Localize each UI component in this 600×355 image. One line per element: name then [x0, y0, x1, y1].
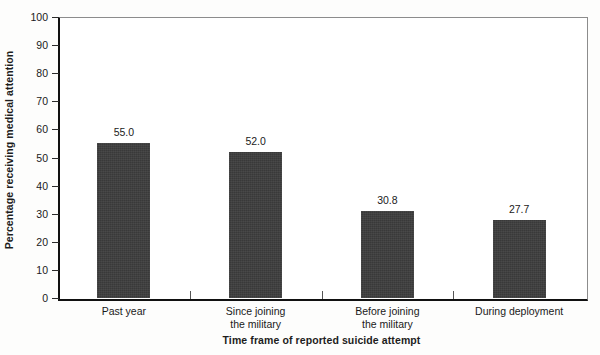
- bar-value-label: 55.0: [84, 126, 164, 138]
- y-axis-tick: [52, 270, 59, 271]
- y-axis-tick: [52, 73, 59, 74]
- bar-value-label: 30.8: [347, 194, 427, 206]
- bar: [229, 152, 282, 298]
- y-axis-tick-label: 100: [0, 11, 48, 23]
- y-axis-tick-label: 30: [0, 208, 48, 220]
- y-axis-tick: [52, 298, 59, 299]
- category-label-line: Before joining: [321, 305, 453, 318]
- y-axis-tick: [52, 158, 59, 159]
- bar: [493, 220, 546, 298]
- x-axis-tick: [322, 291, 323, 299]
- bar-value-label: 52.0: [216, 135, 296, 147]
- y-axis-tick-label: 80: [0, 67, 48, 79]
- y-axis-tick: [52, 186, 59, 187]
- bar: [97, 143, 150, 298]
- category-label-line: the military: [190, 318, 322, 331]
- bar-value-label: 27.7: [479, 203, 559, 215]
- y-axis-tick-label: 20: [0, 236, 48, 248]
- category-label-line: During deployment: [453, 305, 585, 318]
- x-axis-category-label: Before joiningthe military: [321, 305, 453, 331]
- y-axis-tick-label: 10: [0, 264, 48, 276]
- x-axis-category-label: During deployment: [453, 305, 585, 318]
- y-axis-tick: [52, 101, 59, 102]
- x-axis-category-label: Since joiningthe military: [190, 305, 322, 331]
- y-axis-tick-label: 70: [0, 95, 48, 107]
- x-axis-category-label: Past year: [58, 305, 190, 318]
- y-axis-tick: [52, 129, 59, 130]
- y-axis-tick: [52, 214, 59, 215]
- y-axis-tick: [52, 45, 59, 46]
- y-axis-tick-label: 40: [0, 180, 48, 192]
- x-axis-title: Time frame of reported suicide attempt: [58, 334, 585, 346]
- bar: [361, 211, 414, 298]
- x-axis-tick: [453, 291, 454, 299]
- y-axis-tick: [52, 17, 59, 18]
- category-label-line: Past year: [58, 305, 190, 318]
- y-axis-tick-label: 0: [0, 292, 48, 304]
- category-label-line: the military: [321, 318, 453, 331]
- y-axis-tick-label: 50: [0, 152, 48, 164]
- y-axis-tick-label: 90: [0, 39, 48, 51]
- bar-chart: Percentage receiving medical attention 0…: [0, 0, 600, 355]
- y-axis-tick-label: 60: [0, 123, 48, 135]
- y-axis-tick: [52, 242, 59, 243]
- category-label-line: Since joining: [190, 305, 322, 318]
- x-axis-tick: [190, 291, 191, 299]
